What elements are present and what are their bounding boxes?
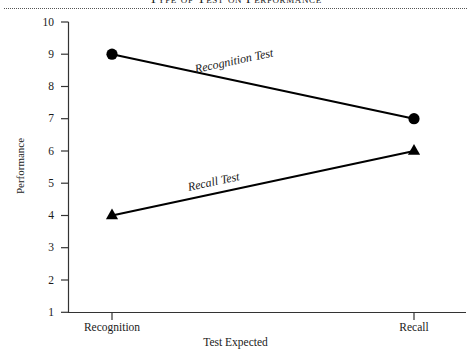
series-recall-test [106, 144, 420, 219]
y-tick-label-10: 10 [28, 16, 54, 28]
y-tick-label-4: 4 [28, 209, 54, 221]
y-axis-ticks [61, 22, 69, 312]
x-axis-ticks [112, 313, 414, 321]
y-tick-label-1: 1 [28, 306, 54, 318]
data-point-recognition-at-recognition [106, 49, 117, 60]
y-tick-label-3: 3 [28, 241, 54, 253]
y-tick-label-8: 8 [28, 80, 54, 92]
data-point-recognition-at-recall [408, 113, 419, 124]
y-tick-label-7: 7 [28, 112, 54, 124]
series-recall-test-line [112, 151, 414, 216]
y-tick-label-5: 5 [28, 177, 54, 189]
x-tick-label-recall: Recall [399, 321, 428, 334]
y-tick-label-9: 9 [28, 48, 54, 60]
x-tick-label-recognition: Recognition [84, 321, 140, 334]
chart-figure: Type of Test on Performance Performance … [0, 0, 471, 358]
y-tick-label-2: 2 [28, 274, 54, 286]
data-point-recall-at-recall [408, 144, 420, 155]
series-recognition-test-line [112, 54, 414, 119]
y-tick-label-6: 6 [28, 145, 54, 157]
